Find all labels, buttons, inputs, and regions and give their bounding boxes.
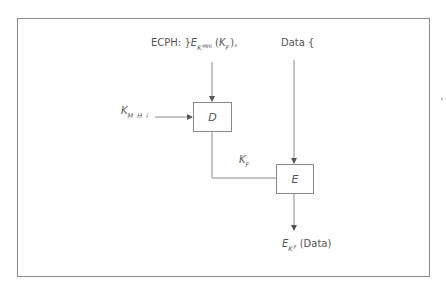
ecph-label: ECPH: }EKMHi (KF),	[151, 37, 237, 48]
key-symbol: K	[121, 105, 128, 116]
block-e-label: E	[292, 173, 299, 186]
intermediate-subscript: F	[246, 161, 251, 169]
output-argument: (Data)	[300, 238, 332, 249]
ecph-prefix: ECPH:	[151, 37, 181, 48]
block-d: D	[193, 102, 232, 132]
data-brace: {	[308, 37, 314, 48]
intermediate-symbol: K	[239, 154, 246, 165]
key-label: KM H i	[121, 105, 149, 116]
scan-speck	[441, 98, 443, 100]
key-subscript: M H i	[128, 112, 149, 120]
output-subscript: K	[288, 245, 293, 253]
intermediate-key-label: KF	[239, 154, 250, 165]
output-label: EKF (Data)	[282, 238, 331, 249]
ecph-arg-subscript: F	[226, 44, 231, 52]
ecph-arg-symbol: K	[219, 37, 226, 48]
block-d-label: D	[208, 111, 216, 124]
ecph-sub-subscript: MHi	[202, 43, 211, 49]
block-e: E	[276, 164, 314, 194]
ecph-arg-close: ),	[230, 37, 237, 48]
data-text: Data	[281, 37, 305, 48]
data-label: Data {	[281, 37, 314, 48]
